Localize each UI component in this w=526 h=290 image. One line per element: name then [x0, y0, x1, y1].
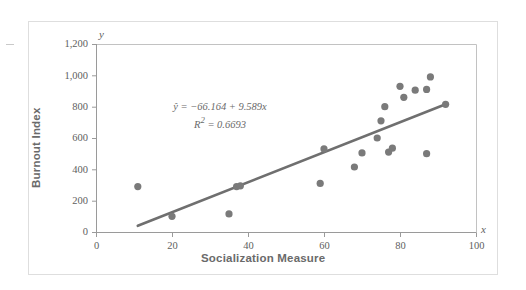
data-point	[396, 83, 403, 90]
data-point	[427, 73, 434, 80]
r-squared-value: = 0.6693	[205, 119, 246, 130]
x-axis-ticks	[97, 233, 477, 238]
x-axis-title: Socialization Measure	[201, 252, 325, 264]
x-tick-label-40: 40	[229, 240, 269, 251]
data-point	[423, 150, 430, 157]
y-axis-title: Burnout Index	[30, 107, 42, 188]
x-tick-label-0: 0	[77, 240, 117, 251]
data-points	[134, 73, 449, 220]
x-tick-label-20: 20	[153, 240, 193, 251]
data-point	[442, 101, 449, 108]
x-tick-label-60: 60	[305, 240, 345, 251]
data-point	[400, 94, 407, 101]
data-point	[389, 145, 396, 152]
plot-frame	[96, 45, 477, 233]
plot-wrap: 1,200 1,000 800 600 400 200 0 0 20 40 60…	[0, 0, 526, 290]
y-axis-ticks	[92, 45, 97, 233]
data-point	[377, 117, 384, 124]
y-tick-label-200: 200	[40, 195, 88, 206]
data-point	[168, 213, 175, 220]
data-point	[374, 134, 381, 141]
data-point	[351, 163, 358, 170]
y-tick-label-0: 0	[40, 226, 88, 237]
y-tick-label-800: 800	[40, 101, 88, 112]
data-point	[320, 145, 327, 152]
x-tick-label-100: 100	[457, 240, 497, 251]
x-tick-label-80: 80	[381, 240, 421, 251]
data-point	[237, 182, 244, 189]
y-tick-label-600: 600	[40, 132, 88, 143]
regression-r-squared: R2 = 0.6693	[150, 114, 290, 132]
regression-equation: ŷ = −66.164 + 9.589x	[150, 99, 290, 114]
data-point	[317, 180, 324, 187]
y-tick-label-1000: 1,000	[40, 70, 88, 81]
data-point	[358, 149, 365, 156]
data-point	[381, 103, 388, 110]
data-point	[225, 210, 232, 217]
y-tick-label-1200: 1,200	[40, 38, 88, 49]
figure-container: 1,200 1,000 800 600 400 200 0 0 20 40 60…	[0, 0, 526, 290]
y-axis-letter: y	[99, 28, 104, 40]
axes	[96, 44, 477, 233]
x-axis-letter: x	[481, 223, 486, 235]
data-point	[423, 86, 430, 93]
data-point	[412, 87, 419, 94]
y-tick-label-400: 400	[40, 164, 88, 175]
data-point	[134, 183, 141, 190]
regression-annotation: ŷ = −66.164 + 9.589x R2 = 0.6693	[150, 99, 290, 132]
